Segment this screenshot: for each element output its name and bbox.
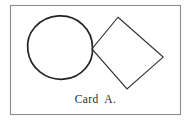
card-border-rectangle — [11, 6, 181, 115]
card-figure: Card A. — [0, 0, 191, 124]
figure-drawing-canvas — [0, 0, 191, 124]
